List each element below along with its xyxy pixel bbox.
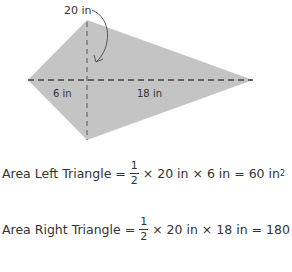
eq-lhs: Area Right Triangle =	[2, 222, 135, 237]
eq-rhs: × 20 in × 18 in = 180 in	[152, 222, 292, 237]
eq-rhs: × 20 in × 6 in = 60 in	[143, 166, 280, 181]
left-triangle-equation: Area Left Triangle = 12 × 20 in × 6 in =…	[2, 160, 285, 187]
fraction: 12	[139, 216, 148, 243]
kite-diagram: 20 in 6 in 18 in	[0, 0, 292, 150]
height-label: 20 in	[64, 4, 92, 17]
left-base-label: 6 in	[53, 88, 72, 99]
right-base-label: 18 in	[137, 88, 162, 99]
fraction: 12	[130, 160, 139, 187]
right-triangle-equation: Area Right Triangle = 12 × 20 in × 18 in…	[2, 216, 292, 243]
eq-lhs: Area Left Triangle =	[2, 166, 126, 181]
